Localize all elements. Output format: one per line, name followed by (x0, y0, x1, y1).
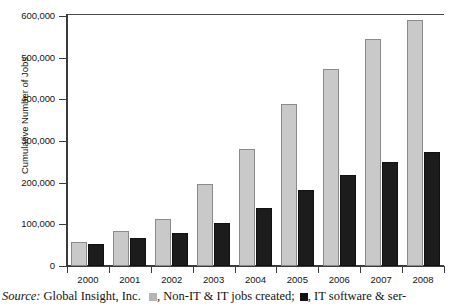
x-tick-mark (235, 266, 236, 273)
plot-area (67, 16, 444, 266)
y-tick-mark (59, 224, 67, 225)
y-tick-label: 100,000 (0, 218, 55, 229)
y-tick-label: 500,000 (0, 52, 55, 63)
legend-label-dark: , IT software & ser- (308, 289, 406, 303)
x-tick-mark (360, 266, 361, 273)
bar-2001-series-0 (113, 231, 129, 266)
y-tick-mark (59, 58, 67, 59)
x-tick-mark (402, 266, 403, 273)
bar-2003-series-1 (214, 223, 230, 266)
bar-2004-series-1 (256, 208, 272, 266)
x-tick-label-2006: 2006 (317, 274, 361, 285)
bar-2006-series-1 (340, 175, 356, 266)
bar-2005-series-1 (298, 190, 314, 266)
y-tick-label: 300,000 (0, 135, 55, 146)
x-tick-label-2002: 2002 (150, 274, 194, 285)
bar-2003-series-0 (197, 184, 213, 267)
x-tick-label-2003: 2003 (192, 274, 236, 285)
bar-2008-series-0 (407, 20, 423, 266)
bar-2007-series-0 (365, 39, 381, 266)
legend-label-light: , Non-IT & IT jobs created; (157, 289, 295, 303)
x-tick-mark (318, 266, 319, 273)
y-axis-label: Cumulative Number of Jobs (19, 0, 30, 236)
y-tick-label: 200,000 (0, 177, 55, 188)
y-tick-mark (59, 266, 67, 267)
bar-2000-series-0 (71, 242, 87, 266)
bar-2000-series-1 (88, 244, 104, 266)
y-tick-label: 600,000 (0, 10, 55, 21)
x-tick-label-2004: 2004 (234, 274, 278, 285)
bar-2001-series-1 (130, 238, 146, 266)
x-tick-label-2000: 2000 (66, 274, 110, 285)
bar-2007-series-1 (382, 162, 398, 266)
y-tick-label: 0 (0, 260, 55, 271)
y-tick-mark (59, 141, 67, 142)
x-tick-label-2008: 2008 (401, 274, 445, 285)
bar-2004-series-0 (239, 149, 255, 266)
y-tick-mark (59, 99, 67, 100)
x-tick-mark (276, 266, 277, 273)
x-tick-mark (109, 266, 110, 273)
bar-2008-series-1 (424, 152, 440, 266)
x-tick-mark (151, 266, 152, 273)
legend-swatch-light-icon (149, 293, 157, 301)
bar-2002-series-0 (155, 219, 171, 266)
source-caption: Source: Global Insight, Inc. , Non-IT & … (2, 289, 451, 304)
x-tick-mark (444, 266, 445, 273)
bar-2005-series-0 (281, 104, 297, 266)
x-tick-label-2001: 2001 (108, 274, 152, 285)
x-tick-mark (193, 266, 194, 273)
plot-frame-top (66, 14, 444, 15)
caption-source-text: Global Insight, Inc. (44, 289, 141, 303)
x-tick-mark (67, 266, 68, 273)
caption-source-word: Source: (2, 289, 40, 303)
y-tick-label: 400,000 (0, 93, 55, 104)
y-tick-mark (59, 183, 67, 184)
legend-swatch-dark-icon (300, 293, 308, 301)
bar-2002-series-1 (172, 233, 188, 266)
x-tick-label-2005: 2005 (275, 274, 319, 285)
x-tick-label-2007: 2007 (359, 274, 403, 285)
bar-2006-series-0 (323, 69, 339, 267)
y-tick-mark (59, 16, 67, 17)
figure-container: Cumulative Number of Jobs 0100,000200,00… (0, 0, 451, 308)
